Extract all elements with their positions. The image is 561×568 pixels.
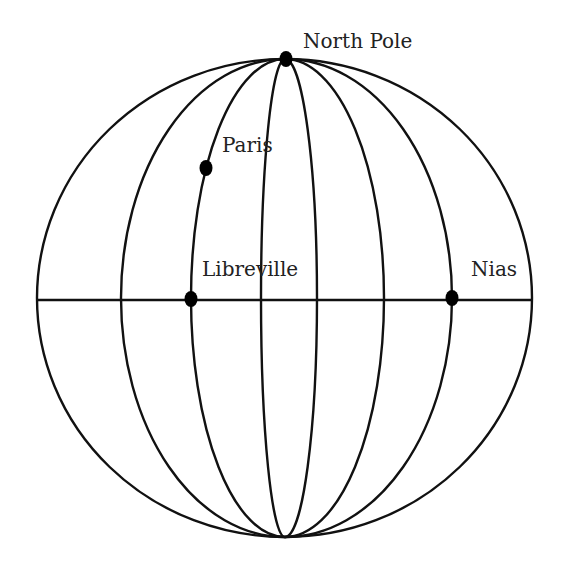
meridian-arc xyxy=(261,59,285,537)
globe-outline-arc xyxy=(285,59,532,537)
globe-outline-arc xyxy=(37,59,285,537)
label-nias: Nias xyxy=(471,257,517,281)
meridian-arc xyxy=(285,59,317,537)
north-pole-dot-icon xyxy=(280,51,293,67)
paris-dot-icon xyxy=(200,160,213,176)
meridian-arc xyxy=(285,59,452,537)
meridian-arc xyxy=(191,59,285,537)
nias-dot-icon xyxy=(446,290,459,306)
label-paris: Paris xyxy=(222,133,273,157)
globe-diagram: North Pole Paris Libreville Nias xyxy=(0,0,561,568)
label-north-pole: North Pole xyxy=(303,29,412,53)
libreville-dot-icon xyxy=(185,291,198,307)
label-libreville: Libreville xyxy=(202,257,298,281)
meridian-arc xyxy=(285,59,384,537)
